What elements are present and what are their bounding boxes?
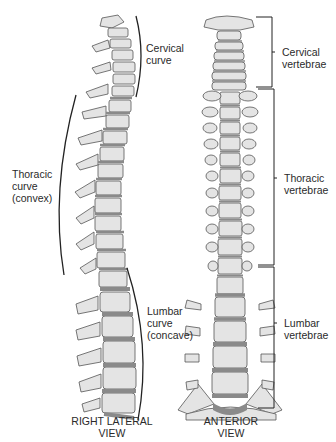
anterior-spine xyxy=(204,16,254,90)
region-brackets xyxy=(256,17,277,408)
lateral-view-caption: RIGHT LATERAL VIEW xyxy=(62,415,162,439)
thoracic-curve-label: Thoracic curve (convex) xyxy=(12,168,52,204)
cervical-curve-label: Cervical curve xyxy=(146,42,184,66)
anterior-lumbar xyxy=(178,297,282,420)
cervical-vertebrae-label: Cervical vertebrae xyxy=(282,46,326,70)
thoracic-bracket xyxy=(258,89,277,265)
lumbar-curve-label: Lumbar curve (concave) xyxy=(147,305,193,341)
thoracic-vertebrae-label: Thoracic vertebrae xyxy=(284,172,328,196)
anterior-view-caption: ANTERIOR VIEW xyxy=(196,415,266,439)
thoracic-curve-arc xyxy=(59,95,76,275)
cervical-curve-arc xyxy=(136,16,141,97)
cervical-bracket xyxy=(256,17,275,87)
lumbar-vertebrae-label: Lumbar vertebrae xyxy=(284,317,328,341)
